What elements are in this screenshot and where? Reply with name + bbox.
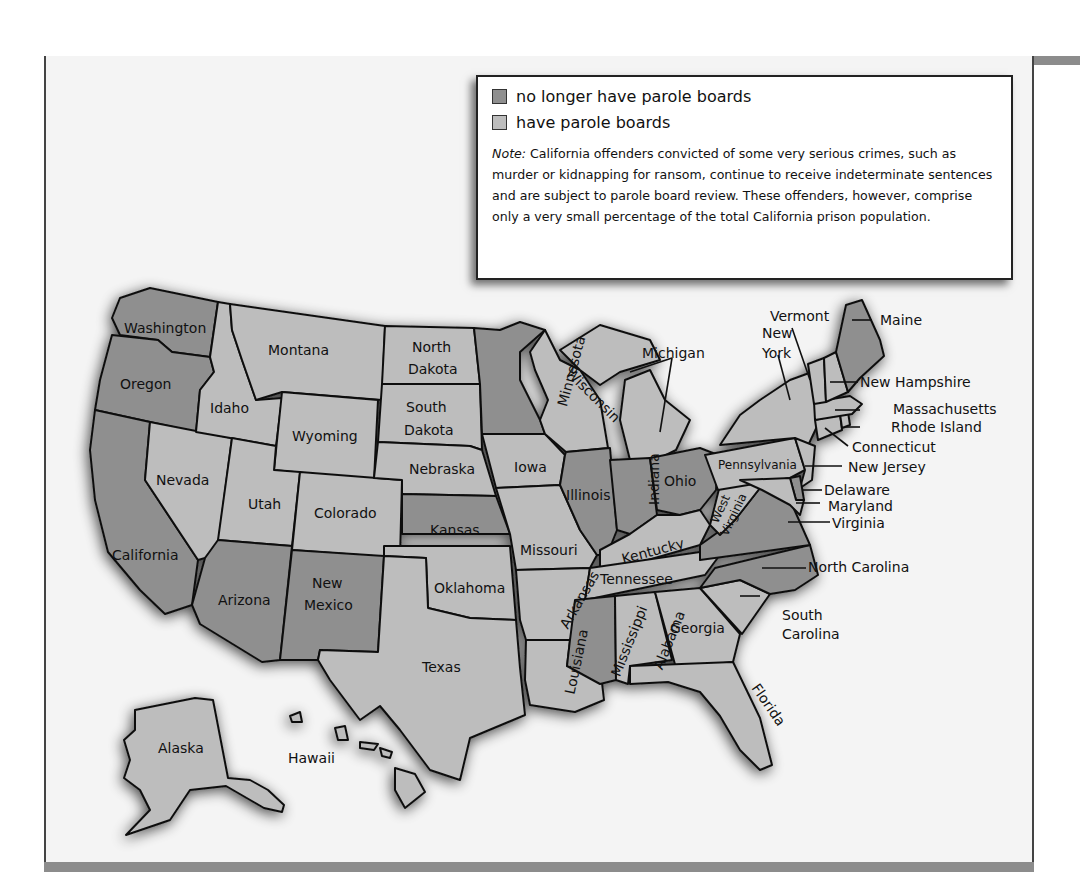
svg-text:Connecticut: Connecticut <box>852 439 936 455</box>
svg-text:Missouri: Missouri <box>520 542 578 558</box>
svg-text:Wyoming: Wyoming <box>292 428 358 444</box>
hawaii-island-2 <box>335 726 348 740</box>
svg-text:Nebraska: Nebraska <box>409 461 475 477</box>
svg-text:North: North <box>412 339 451 355</box>
svg-text:Massachusetts: Massachusetts <box>893 401 996 417</box>
svg-text:Mexico: Mexico <box>304 597 353 613</box>
svg-text:Hawaii: Hawaii <box>288 750 335 766</box>
svg-text:Oklahoma: Oklahoma <box>434 580 505 596</box>
state-new-york <box>720 372 820 452</box>
svg-text:Dakota: Dakota <box>408 361 458 377</box>
svg-text:Carolina: Carolina <box>782 626 840 642</box>
state-alaska <box>124 698 284 835</box>
note-label: Note: <box>492 146 526 161</box>
svg-text:Nevada: Nevada <box>156 472 209 488</box>
svg-text:Virginia: Virginia <box>832 515 885 531</box>
svg-text:South: South <box>782 607 823 623</box>
svg-text:Illinois: Illinois <box>566 487 610 503</box>
svg-text:Oregon: Oregon <box>120 376 171 392</box>
svg-text:Vermont: Vermont <box>770 308 830 324</box>
svg-text:Arizona: Arizona <box>218 592 271 608</box>
svg-text:Maine: Maine <box>880 312 922 328</box>
svg-text:Maryland: Maryland <box>828 498 893 514</box>
swatch-dark-icon <box>492 89 507 104</box>
svg-text:Ohio: Ohio <box>664 473 696 489</box>
svg-text:Delaware: Delaware <box>824 482 890 498</box>
svg-text:Michigan: Michigan <box>642 345 705 361</box>
legend-label-no-parole: no longer have parole boards <box>516 87 751 106</box>
state-michigan-lower <box>620 370 690 460</box>
svg-text:Tennessee: Tennessee <box>599 571 673 587</box>
svg-text:Alaska: Alaska <box>158 740 204 756</box>
svg-text:York: York <box>761 345 792 361</box>
svg-text:Idaho: Idaho <box>210 400 249 416</box>
svg-text:New Jersey: New Jersey <box>848 459 926 475</box>
svg-text:Texas: Texas <box>421 659 461 675</box>
legend-box: no longer have parole boards have parole… <box>476 75 1013 280</box>
swatch-light-icon <box>492 115 507 130</box>
svg-text:New Hampshire: New Hampshire <box>860 374 971 390</box>
state-florida <box>630 662 772 770</box>
state-minnesota <box>474 322 545 434</box>
svg-text:New: New <box>312 575 343 591</box>
svg-text:Washington: Washington <box>124 320 206 336</box>
hawaii-island-big <box>395 768 425 808</box>
legend-item-no-parole: no longer have parole boards <box>492 83 997 109</box>
svg-text:South: South <box>406 399 447 415</box>
legend-note: Note: California offenders convicted of … <box>492 143 997 227</box>
svg-text:Indiana: Indiana <box>646 453 662 505</box>
svg-text:North Carolina: North Carolina <box>808 559 909 575</box>
svg-text:Montana: Montana <box>268 342 329 358</box>
state-south-dakota <box>378 384 482 450</box>
svg-text:Colorado: Colorado <box>314 505 377 521</box>
svg-text:California: California <box>112 547 178 563</box>
hawaii-island-1 <box>290 712 302 722</box>
svg-text:Iowa: Iowa <box>514 459 547 475</box>
hawaii-island-4 <box>380 748 392 758</box>
svg-text:Utah: Utah <box>248 496 281 512</box>
legend-label-parole: have parole boards <box>516 113 670 132</box>
note-text: California offenders convicted of some v… <box>492 146 992 224</box>
legend-item-parole: have parole boards <box>492 109 997 135</box>
svg-text:New: New <box>762 325 793 341</box>
hawaii-island-3 <box>360 742 378 750</box>
svg-text:Georgia: Georgia <box>670 620 725 636</box>
svg-text:Rhode Island: Rhode Island <box>891 419 982 435</box>
svg-text:Dakota: Dakota <box>404 422 454 438</box>
svg-text:Kansas: Kansas <box>430 522 480 538</box>
svg-text:Pennsylvania: Pennsylvania <box>718 458 797 472</box>
